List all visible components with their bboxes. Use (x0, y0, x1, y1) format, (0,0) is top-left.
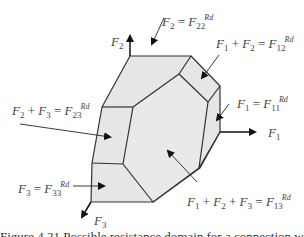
label-f13: F1 + F2 + F3 = F13Rd (187, 194, 291, 211)
figure-caption: Figure 4.21 Possible resistance domain f… (0, 229, 304, 237)
axis-f3 (82, 202, 91, 217)
axis-label-f1: F1 (268, 126, 280, 142)
label-f22: F2 = F22Rd (162, 14, 213, 31)
axis-label-f3: F3 (94, 214, 106, 230)
axis-label-f2: F2 (111, 35, 123, 51)
label-f12: F1 + F2 = F12Rd (216, 36, 293, 53)
label-f11: F1 = F11Rd (237, 96, 288, 113)
label-f33: F3 = F33Rd (18, 181, 69, 198)
label-f23: F2 + F3 = F23Rd (12, 103, 89, 120)
